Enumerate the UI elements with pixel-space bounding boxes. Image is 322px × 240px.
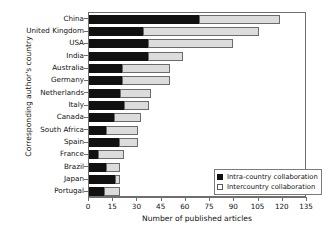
x-axis-tick [161,197,162,201]
x-axis-tick-label: 0 [86,202,91,211]
chart-legend: Intra-country collaboration Intercountry… [214,169,322,195]
legend-label-inter: Intercountry collaboration [227,183,315,191]
bar-segment-intra [89,15,200,24]
bar-row [89,89,151,98]
bar-row [89,187,120,196]
bar-segment-intra [89,39,149,48]
bar-segment-intra [89,52,149,61]
bar-segment-intra [89,175,116,184]
bar-segment-intra [89,113,115,122]
x-axis-tick-label: 30 [132,202,141,211]
x-axis-tick-label: 135 [299,202,313,211]
legend-label-intra: Intra-country collaboration [227,173,318,181]
y-axis-ticks [0,12,88,197]
bar-row [89,101,149,110]
bar-row [89,138,138,147]
legend-item-inter: Intercountry collaboration [217,182,318,192]
open-square-icon [217,184,223,190]
bar-segment-inter [114,113,141,122]
bar-row [89,52,183,61]
bar-segment-inter [122,76,170,85]
x-axis-tick-label: 105 [251,202,265,211]
x-axis-tick [282,197,283,201]
x-axis-tick [88,197,89,201]
bar-segment-intra [89,89,121,98]
x-axis-title: Number of published articles [88,214,306,223]
x-axis-tick-label: 120 [275,202,289,211]
chart-figure: Corresponding author's country ChinaUnit… [0,0,322,240]
bar-segment-intra [89,187,105,196]
x-axis-tick [136,197,137,201]
x-axis-line [88,197,306,198]
x-axis-tick [258,197,259,201]
bar-segment-inter [148,52,184,61]
bar-row [89,64,170,73]
x-axis-tick-label: 90 [229,202,238,211]
bar-row [89,39,233,48]
bar-row [89,27,259,36]
bar-segment-inter [124,101,150,110]
bar-row [89,163,120,172]
x-axis-tick [185,197,186,201]
bar-segment-inter [199,15,280,24]
bar-segment-inter [119,138,138,147]
x-axis-tick [233,197,234,201]
bar-segment-inter [98,150,124,159]
x-axis-tick [112,197,113,201]
bar-segment-inter [148,39,234,48]
legend-item-intra: Intra-country collaboration [217,172,318,182]
bar-segment-intra [89,27,144,36]
x-axis-tick [306,197,307,201]
bar-row [89,15,280,24]
bar-row [89,126,138,135]
x-axis-tick-label: 75 [205,202,214,211]
bar-segment-inter [106,163,121,172]
x-axis-tick [209,197,210,201]
bar-segment-inter [115,175,120,184]
bar-segment-intra [89,76,123,85]
bar-segment-inter [104,187,120,196]
x-axis-tick-label: 15 [108,202,117,211]
bar-segment-inter [120,89,151,98]
bar-row [89,113,141,122]
bar-segment-inter [143,27,259,36]
bar-row [89,175,120,184]
bar-segment-intra [89,126,107,135]
bar-segment-intra [89,138,120,147]
filled-square-icon [217,174,223,180]
bar-row [89,76,170,85]
bar-segment-inter [122,64,170,73]
bar-segment-intra [89,64,123,73]
bar-segment-intra [89,101,125,110]
bar-segment-inter [106,126,138,135]
bar-row [89,150,124,159]
x-axis-tick-label: 60 [180,202,189,211]
x-axis-tick-label: 45 [156,202,165,211]
bar-segment-intra [89,163,107,172]
